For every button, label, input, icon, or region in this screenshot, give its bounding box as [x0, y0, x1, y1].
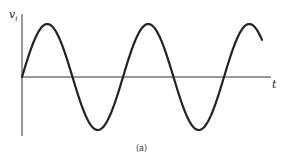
sine-wave-figure: [0, 0, 286, 160]
figure-caption: (a): [136, 144, 147, 153]
x-axis-label: t: [272, 78, 276, 91]
y-axis-label-subscript: i: [15, 15, 17, 23]
y-axis-label: vi: [9, 8, 17, 23]
